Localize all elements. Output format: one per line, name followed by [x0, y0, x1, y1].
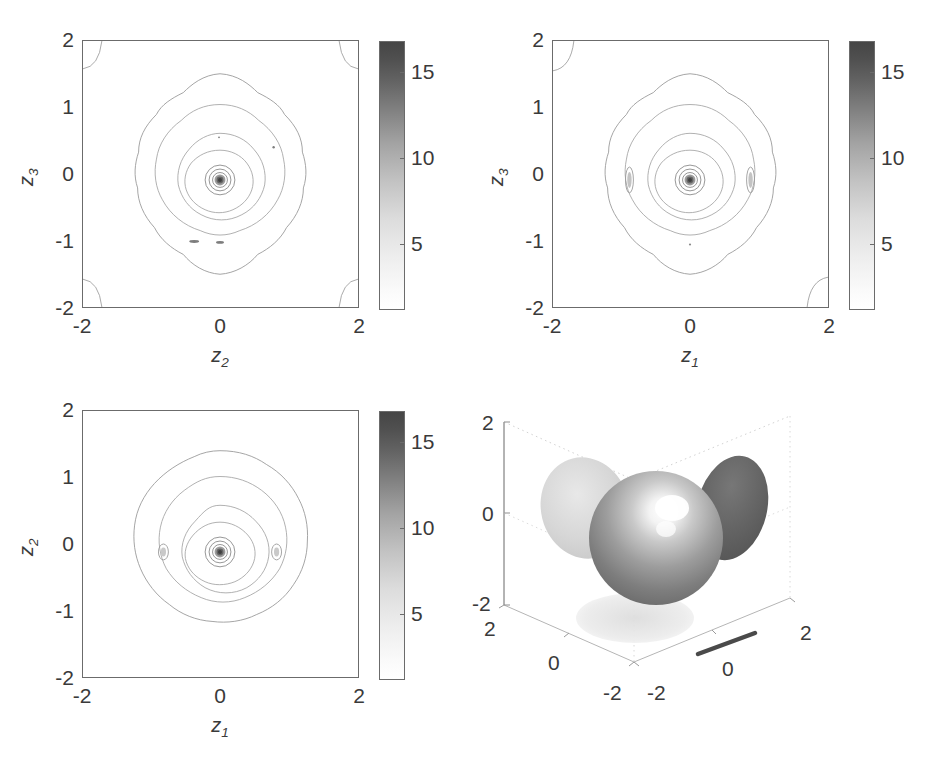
panel-contour-z1-z2: 2 1 0 -1 -2 -2 0 2 z2 z1 15 10 5	[0, 390, 460, 779]
ytick-bottom-left-2: 0	[48, 533, 74, 554]
colorbar-label-top-left-2: 5	[411, 233, 423, 254]
colorbar-label-top-left-0: 15	[411, 61, 434, 82]
colorbar-label-top-right-2: 5	[881, 233, 893, 254]
colorbar-tick-mark-top-left-15	[400, 72, 405, 73]
colorbar-label-bottom-left-1: 10	[411, 517, 434, 538]
central-sphere	[589, 471, 723, 605]
colorbar-label-top-left-1: 10	[411, 147, 434, 168]
ylabel-top-left: z3	[16, 147, 41, 207]
figure-canvas: 2 1 0 -1 -2 -2 0 2 z3 z2 15 10 5	[0, 0, 928, 779]
ytick-bottom-left-1: 1	[48, 466, 74, 487]
left-axis-tick-3d-0: 2	[484, 618, 496, 639]
contour-lines-top-right	[553, 41, 828, 307]
ytick-bottom-left-3: -1	[38, 600, 74, 621]
right-axis-tick-3d-0: -2	[647, 682, 666, 703]
colorbar-tick-mark-top-right-15	[870, 72, 875, 73]
ytick-top-right-3: -1	[508, 230, 544, 251]
xtick-top-left-1: 0	[200, 315, 240, 336]
central-peak-marker-top-left	[215, 174, 226, 185]
central-peak-marker-top-right	[685, 174, 696, 185]
ytick-top-left-0: 2	[48, 29, 74, 50]
colorbar-label-bottom-left-2: 5	[411, 603, 423, 624]
colorbar-top-left	[379, 41, 405, 310]
axes-box-top-right	[552, 40, 829, 308]
z-axis-ticks	[504, 422, 510, 605]
xtick-top-right-1: 0	[670, 315, 710, 336]
colorbar-bottom-left	[379, 411, 405, 680]
xtick-bottom-left-1: 0	[200, 685, 240, 706]
ytick-top-right-2: 0	[518, 163, 544, 184]
right-axis-tick-3d-1: 0	[722, 658, 734, 679]
xtick-bottom-left-0: -2	[62, 685, 102, 706]
panel-contour-z2-z3: 2 1 0 -1 -2 -2 0 2 z3 z2 15 10 5	[0, 0, 460, 390]
ytick-top-left-3: -1	[38, 230, 74, 251]
side-lobe-right-bottom-left	[272, 544, 282, 560]
colorbar-tick-mark-bottom-left-5	[400, 614, 405, 615]
ylabel-bottom-left: z2	[16, 517, 41, 577]
left-axis-tick-3d-1: 0	[548, 652, 560, 673]
axes-box-bottom-left	[82, 410, 359, 678]
central-peak-marker-bottom-left	[215, 546, 226, 557]
panel-isosurface-3d: 2 0 -2 2 0 -2 -2 0 2	[460, 390, 928, 779]
ztick-3d-0: 2	[482, 412, 494, 433]
colorbar-tick-mark-bottom-left-15	[400, 442, 405, 443]
left-axis-tick-3d-2: -2	[603, 682, 622, 703]
ylabel-top-right: z3	[486, 147, 511, 207]
xtick-bottom-left-2: 2	[339, 685, 379, 706]
speckles-top-right	[689, 243, 691, 245]
contour-lines-bottom-left	[83, 411, 358, 677]
xtick-top-right-0: -2	[532, 315, 572, 336]
colorbar-top-right	[849, 41, 875, 310]
colorbar-label-bottom-left-0: 15	[411, 431, 434, 452]
xtick-top-left-0: -2	[62, 315, 102, 336]
side-lobe-right-top-right	[747, 167, 755, 193]
colorbar-tick-mark-top-left-10	[400, 158, 405, 159]
side-lobe-left-top-right	[625, 167, 633, 193]
colorbar-label-top-right-0: 15	[881, 61, 904, 82]
colorbar-tick-mark-top-right-10	[870, 158, 875, 159]
xtick-top-left-2: 2	[339, 315, 379, 336]
xlabel-top-right: z1	[670, 345, 710, 370]
right-axis-tick-3d-2: 2	[800, 622, 812, 643]
colorbar-tick-mark-bottom-left-10	[400, 528, 405, 529]
ztick-3d-2: -2	[472, 593, 491, 614]
xlabel-top-left: z2	[200, 345, 240, 370]
ytick-top-right-0: 2	[518, 29, 544, 50]
ztick-3d-1: 0	[482, 503, 494, 524]
ytick-top-right-1: 1	[518, 96, 544, 117]
contour-lines-top-left	[83, 41, 358, 307]
sphere-specular-highlight	[655, 495, 689, 521]
colorbar-label-top-right-1: 10	[881, 147, 904, 168]
axes-box-top-left	[82, 40, 359, 308]
sphere-specular-secondary	[656, 521, 676, 537]
colorbar-tick-mark-top-left-5	[400, 244, 405, 245]
xlabel-bottom-left: z1	[200, 715, 240, 740]
xtick-top-right-2: 2	[809, 315, 849, 336]
panel-contour-z1-z3: 2 1 0 -1 -2 -2 0 2 z3 z1 15 10 5	[460, 0, 928, 390]
colorbar-tick-mark-top-right-5	[870, 244, 875, 245]
ytick-top-left-2: 0	[48, 163, 74, 184]
isosurface-3d-scene	[460, 390, 928, 779]
floor-dark-streak	[698, 633, 755, 654]
ytick-top-left-1: 1	[48, 96, 74, 117]
ytick-bottom-left-0: 2	[48, 399, 74, 420]
